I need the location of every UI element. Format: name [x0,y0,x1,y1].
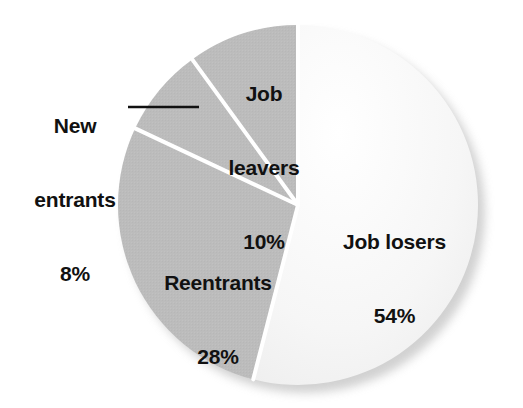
pie-chart-svg [0,0,523,408]
pie-chart-figure: Job losers 54% Reentrants 28% Job leaver… [0,0,523,408]
